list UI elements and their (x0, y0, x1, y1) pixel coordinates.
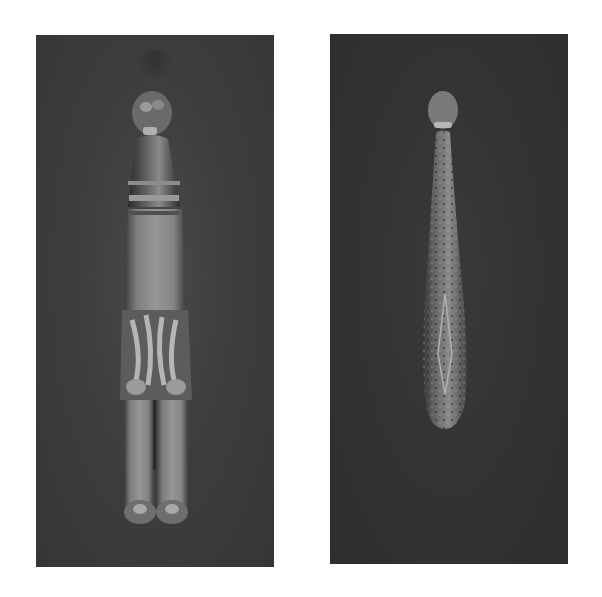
foot-highlight (165, 504, 179, 514)
openwork-boss (126, 379, 146, 395)
inlay-pattern (423, 131, 467, 430)
neck-ring (129, 195, 179, 201)
head-highlight (152, 100, 164, 110)
bronze-belt-hook (330, 34, 568, 564)
openwork-boss (166, 379, 186, 395)
jade-belt-hook (36, 35, 274, 567)
foot-highlight (133, 504, 147, 514)
head-snout (143, 127, 157, 135)
jade-band (130, 211, 180, 215)
head-highlight (140, 102, 152, 112)
left-photo-panel (36, 35, 274, 567)
head-mouth (434, 122, 452, 128)
neck-ring (128, 181, 180, 185)
leg-gap (153, 400, 156, 470)
right-photo-panel (330, 34, 568, 564)
jade-upper-body (124, 209, 186, 315)
jade-leg-left (124, 400, 154, 508)
jade-leg-right (156, 400, 188, 508)
